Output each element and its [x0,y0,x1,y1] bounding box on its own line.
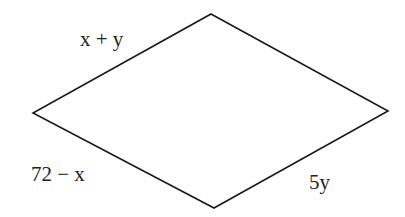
side-label-top-left: x + y [80,27,124,51]
side-label-bottom-right: 5y [309,170,331,194]
rhombus-diagram: x + y 72 − x 5y [0,0,405,217]
side-label-bottom-left: 72 − x [31,162,85,186]
